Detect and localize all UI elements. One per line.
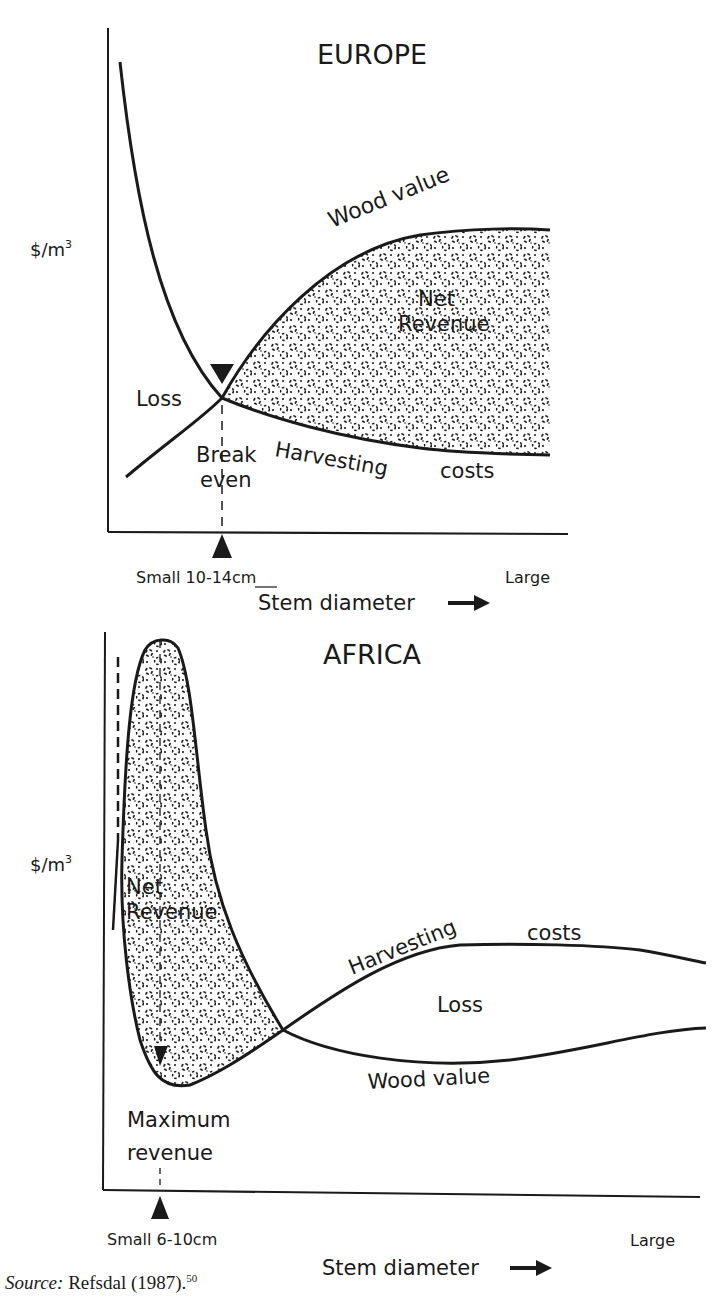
africa-title: AFRICA [323, 639, 422, 670]
europe-break-label: Break [196, 443, 257, 467]
europe-wood-value-label: Wood value [325, 161, 453, 232]
africa-wood-value-label: Wood value [367, 1064, 491, 1094]
europe-title: EUROPE [317, 39, 427, 70]
africa-arrow-right-icon [510, 1260, 552, 1276]
europe-chart: EUROPE $/m3 Wood value Net Revenue Loss … [30, 28, 568, 615]
africa-loss-label: Loss [437, 993, 483, 1017]
africa-y-axis [103, 632, 105, 1190]
europe-x-axis-label: Stem diameter [258, 591, 415, 615]
source-citation: Source: Refsdal (1987).50 [5, 1272, 197, 1294]
europe-y-label: $/m3 [30, 238, 72, 260]
africa-x-marker-icon [151, 1196, 169, 1219]
europe-revenue-label: Revenue [398, 312, 489, 336]
africa-x-small-label: Small 6-10cm [107, 1230, 217, 1249]
africa-x-axis [103, 1190, 700, 1197]
europe-even-label: even [200, 468, 252, 492]
africa-x-axis-label: Stem diameter [322, 1256, 479, 1280]
africa-maximum-label: Maximum [127, 1108, 230, 1132]
europe-x-large-label: Large [505, 568, 550, 587]
africa-revenue-below-label: revenue [127, 1141, 213, 1165]
europe-loss-label: Loss [136, 387, 182, 411]
source-label: Source: [5, 1272, 63, 1293]
europe-x-marker-icon [212, 534, 232, 558]
africa-net-revenue-area [122, 640, 283, 1086]
africa-chart: AFRICA $/m3 Net Revenue Harvesting costs… [30, 632, 706, 1280]
europe-arrow-right-icon [448, 595, 490, 611]
africa-revenue-label: Revenue [126, 900, 217, 924]
europe-net-revenue-area [222, 229, 550, 455]
africa-y-label: $/m3 [30, 853, 72, 875]
africa-costs-label: costs [527, 921, 582, 945]
africa-left-line [113, 840, 118, 930]
africa-net-label: Net [126, 875, 163, 899]
europe-net-label: Net [418, 287, 455, 311]
europe-costs-label: costs [440, 459, 495, 483]
source-text: Refsdal (1987). [63, 1272, 186, 1293]
africa-x-large-label: Large [630, 1231, 675, 1250]
europe-x-axis [108, 532, 568, 534]
europe-harvesting-label: Harvesting [273, 437, 390, 480]
diagram-canvas: EUROPE $/m3 Wood value Net Revenue Loss … [0, 0, 717, 1316]
source-ref: 50 [186, 1272, 197, 1284]
europe-x-small-label: Small 10-14cm [136, 568, 256, 587]
